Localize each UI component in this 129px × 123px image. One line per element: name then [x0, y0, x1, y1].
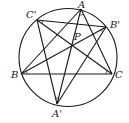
label-B-prime: B' [109, 19, 120, 30]
label-A: A [77, 0, 85, 10]
label-B: B [10, 69, 18, 80]
segment-B-B1 [21, 27, 106, 74]
angle-mark-B1 [101, 30, 103, 32]
geometry-diagram: A B C A' B' C' P [0, 0, 129, 123]
point-labels: A B C A' B' C' P [10, 0, 123, 119]
label-C: C [115, 69, 123, 80]
segments [21, 9, 112, 104]
segment-B1-A1 [57, 27, 106, 104]
label-P: P [73, 31, 81, 42]
label-C-prime: C' [26, 9, 36, 20]
label-A-prime: A' [51, 108, 62, 119]
segment-C1-B1 [37, 20, 106, 27]
